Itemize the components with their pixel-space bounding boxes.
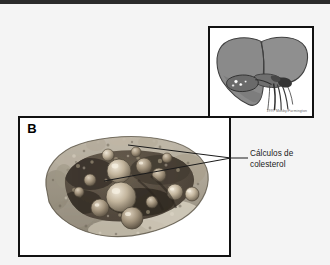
gallstone bbox=[167, 184, 183, 200]
gallstone-icon bbox=[232, 84, 235, 86]
panel-b-tag: B bbox=[22, 120, 42, 137]
inset-credit-text: 1997 Mosby/Farmington bbox=[266, 109, 307, 113]
gallstone bbox=[185, 187, 199, 201]
gallbladder bbox=[227, 75, 259, 92]
gallstone bbox=[107, 159, 131, 183]
gallstone-icon bbox=[234, 80, 238, 84]
gallstone bbox=[131, 147, 141, 157]
gallstone bbox=[162, 153, 172, 163]
gallstone bbox=[121, 207, 143, 229]
label-line-2: colesterol bbox=[250, 160, 328, 171]
liver-schematic-inset: 1997 Mosby/Farmington bbox=[208, 26, 314, 118]
gallstone bbox=[152, 168, 166, 182]
panel-b-photo bbox=[20, 118, 229, 255]
gallstone bbox=[136, 158, 152, 174]
gallstone bbox=[84, 174, 96, 186]
liver-diagram-icon bbox=[210, 28, 312, 116]
figure-page: 1997 Mosby/Farmington bbox=[0, 0, 330, 265]
gallstone-icon bbox=[244, 80, 246, 82]
gallstone bbox=[74, 187, 84, 197]
gallstone bbox=[102, 149, 114, 161]
panel-b: B bbox=[18, 116, 231, 257]
gallstone-icon bbox=[239, 83, 242, 86]
label-line-1: Cálculos de bbox=[250, 149, 328, 160]
liver-schematic-art bbox=[210, 28, 312, 116]
gallstone bbox=[91, 199, 109, 217]
cholesterol-stones-label: Cálculos de colesterol bbox=[250, 149, 328, 170]
gallbladder-specimen-image bbox=[20, 118, 229, 255]
figure-canvas: 1997 Mosby/Farmington bbox=[0, 4, 330, 265]
